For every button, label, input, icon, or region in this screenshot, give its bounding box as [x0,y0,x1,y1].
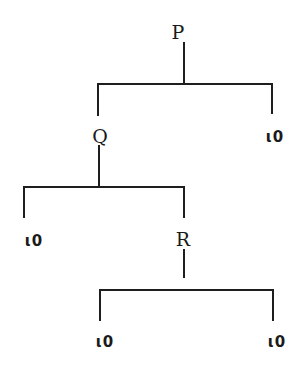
leaf-p-right-label: ι0 [266,128,284,146]
node-q-label: Q [92,125,108,147]
node-p-label: P [172,21,185,43]
tree-diagram: P ι0 Q ι0 R ι0 ι0 [0,0,304,369]
leaf-q-left-label: ι0 [25,232,43,250]
leaf-r-left-label: ι0 [96,333,114,351]
node-r-label: R [176,228,191,250]
leaf-r-right-label: ι0 [268,333,286,351]
